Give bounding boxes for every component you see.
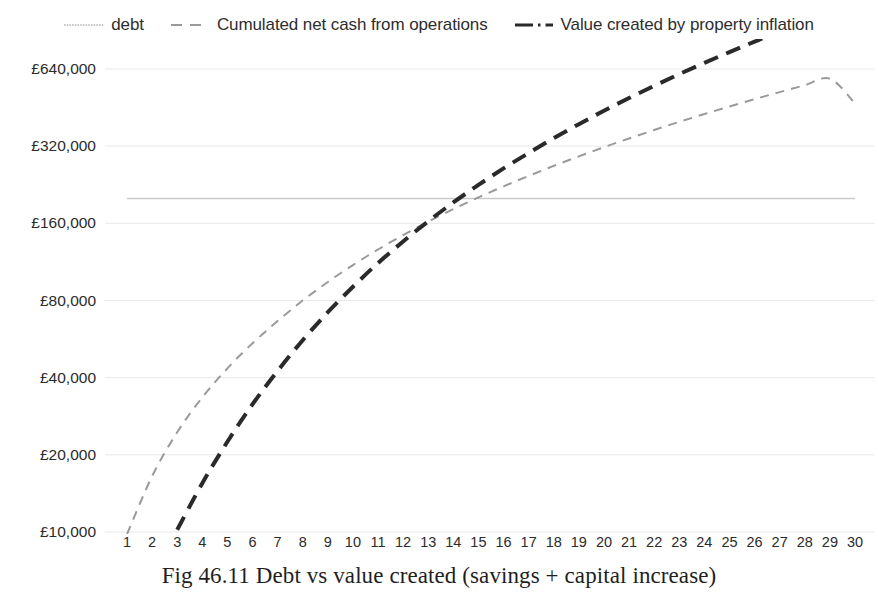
plot-area: £640,000£320,000£160,000£80,000£40,000£2… xyxy=(0,0,878,608)
y-axis-tick-label: £160,000 xyxy=(0,214,96,232)
y-axis-tick-label: £20,000 xyxy=(0,446,96,464)
y-axis-tick-label: £320,000 xyxy=(0,137,96,155)
y-axis-tick-label: £40,000 xyxy=(0,369,96,387)
series-lines xyxy=(127,29,855,534)
gridlines xyxy=(105,69,874,532)
chart-figure: debt Cumulated net cash from operations … xyxy=(0,0,878,608)
y-axis-tick-label: £80,000 xyxy=(0,292,96,310)
x-axis-tick-label: 30 xyxy=(840,534,870,550)
figure-caption: Fig 46.11 Debt vs value created (savings… xyxy=(0,563,878,589)
y-axis-tick-label: £640,000 xyxy=(0,60,96,78)
plot-canvas xyxy=(0,0,878,608)
y-axis-tick-label: £10,000 xyxy=(0,523,96,541)
